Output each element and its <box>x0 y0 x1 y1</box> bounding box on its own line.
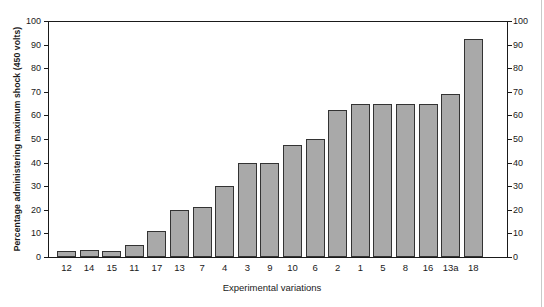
y-tick-label-right-30: 30 <box>513 181 535 191</box>
bar-1 <box>351 104 370 257</box>
bar-2 <box>328 110 347 258</box>
y-tick-left-0 <box>44 257 48 258</box>
bar-17 <box>147 231 166 257</box>
bar-9 <box>260 163 279 257</box>
bar-5 <box>373 104 392 257</box>
y-tick-label-left-100: 100 <box>19 16 41 26</box>
y-tick-label-right-90: 90 <box>513 40 535 50</box>
y-tick-label-left-80: 80 <box>19 63 41 73</box>
x-tick-label-18: 18 <box>458 262 488 273</box>
y-tick-right-90 <box>508 45 512 46</box>
y-tick-label-left-90: 90 <box>19 40 41 50</box>
y-tick-right-0 <box>508 257 512 258</box>
bar-15 <box>102 251 121 257</box>
bar-18 <box>464 39 483 257</box>
bar-11 <box>125 245 144 257</box>
y-tick-right-10 <box>508 233 512 234</box>
bar-13 <box>170 210 189 257</box>
y-tick-label-right-50: 50 <box>513 134 535 144</box>
plot-area <box>48 21 507 257</box>
x-axis-title: Experimental variations <box>0 282 544 293</box>
y-tick-label-left-20: 20 <box>19 205 41 215</box>
y-tick-right-80 <box>508 68 512 69</box>
bar-8 <box>396 104 415 257</box>
y-tick-label-left-10: 10 <box>19 228 41 238</box>
y-tick-label-left-40: 40 <box>19 158 41 168</box>
bar-6 <box>306 139 325 257</box>
y-tick-label-right-80: 80 <box>513 63 535 73</box>
y-tick-label-right-60: 60 <box>513 110 535 120</box>
y-tick-right-70 <box>508 92 512 93</box>
y-tick-label-right-10: 10 <box>513 228 535 238</box>
bar-13a <box>441 94 460 257</box>
y-tick-right-100 <box>508 21 512 22</box>
page-edge-line <box>541 0 542 307</box>
y-tick-label-left-60: 60 <box>19 110 41 120</box>
y-tick-label-right-0: 0 <box>513 252 535 262</box>
y-tick-label-left-50: 50 <box>19 134 41 144</box>
y-tick-right-40 <box>508 163 512 164</box>
bar-14 <box>80 250 99 257</box>
bar-10 <box>283 145 302 257</box>
bar-3 <box>238 163 257 257</box>
y-tick-right-30 <box>508 186 512 187</box>
bar-chart: Percentage administering maximum shock (… <box>0 0 544 307</box>
y-tick-label-left-30: 30 <box>19 181 41 191</box>
y-tick-right-50 <box>508 139 512 140</box>
bar-12 <box>57 251 76 257</box>
x-axis-line <box>48 257 508 258</box>
y-tick-label-left-70: 70 <box>19 87 41 97</box>
y-tick-label-left-0: 0 <box>19 252 41 262</box>
y-tick-label-right-20: 20 <box>513 205 535 215</box>
bar-7 <box>193 207 212 257</box>
bar-16 <box>419 104 438 257</box>
y-tick-right-60 <box>508 115 512 116</box>
y-tick-label-right-100: 100 <box>513 16 535 26</box>
y-tick-label-right-40: 40 <box>513 158 535 168</box>
bar-4 <box>215 186 234 257</box>
y-tick-right-20 <box>508 210 512 211</box>
y-tick-label-right-70: 70 <box>513 87 535 97</box>
